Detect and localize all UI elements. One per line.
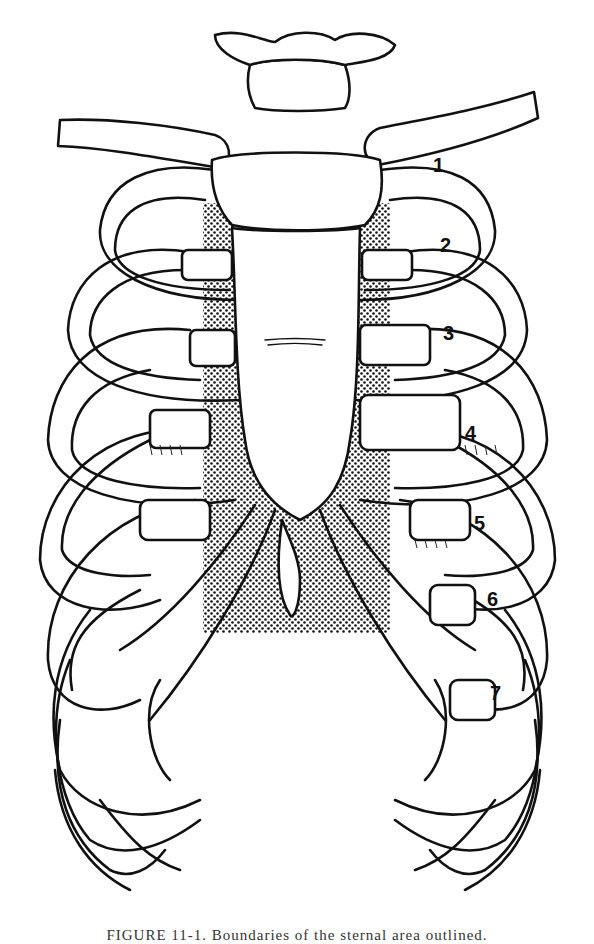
rib-label-5: 5 (474, 512, 485, 534)
figure-caption: FIGURE 11-1. Boundaries of the sternal a… (0, 928, 594, 943)
rib-cage-illustration: 1 2 3 4 5 6 7 (0, 0, 594, 920)
rib-label-7: 7 (490, 682, 501, 704)
rib-label-6: 6 (487, 588, 498, 610)
rib-label-2: 2 (440, 234, 451, 256)
rib-label-1: 1 (433, 154, 444, 176)
rib-label-3: 3 (443, 322, 454, 344)
rib-label-4: 4 (465, 422, 477, 444)
